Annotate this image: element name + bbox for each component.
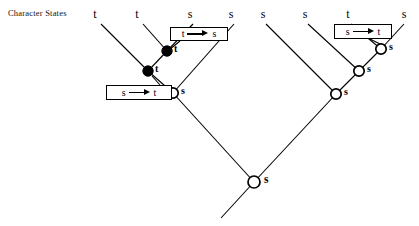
ancestral-node-filled bbox=[143, 66, 153, 76]
tip-state-label: t bbox=[341, 7, 355, 22]
node-state-label: t bbox=[174, 43, 177, 54]
tree-branch bbox=[254, 94, 336, 182]
tree-branch bbox=[221, 182, 254, 218]
nodes-group bbox=[143, 44, 386, 188]
change-to-state: t bbox=[154, 88, 157, 98]
tree-branch bbox=[266, 24, 336, 94]
ancestral-node-open bbox=[331, 89, 341, 99]
tree-branch bbox=[173, 93, 254, 182]
state-change-box: ts bbox=[170, 27, 228, 41]
change-from-state: s bbox=[346, 27, 350, 37]
node-state-label: s bbox=[367, 63, 371, 74]
branches-group bbox=[101, 24, 404, 218]
ancestral-node-open bbox=[354, 66, 364, 76]
tip-state-label: s bbox=[183, 7, 197, 22]
change-from-state: t bbox=[182, 29, 185, 39]
tip-state-label: s bbox=[256, 7, 270, 22]
ancestral-node-open bbox=[376, 44, 386, 54]
node-state-label: s bbox=[264, 173, 268, 185]
tip-state-label: t bbox=[88, 7, 102, 22]
ancestral-node-filled bbox=[162, 46, 172, 56]
node-state-label: s bbox=[181, 85, 185, 96]
right-arrow-icon bbox=[129, 88, 151, 97]
change-from-state: s bbox=[122, 88, 126, 98]
right-arrow-icon bbox=[187, 30, 209, 39]
right-arrow-icon bbox=[353, 27, 375, 36]
tip-state-label: s bbox=[397, 7, 411, 22]
change-to-state: s bbox=[212, 29, 216, 39]
phylogenetic-tree-figure: Character States ttssssts ttsssss tsstst bbox=[0, 0, 419, 226]
character-states-row-label: Character States bbox=[8, 8, 67, 18]
node-state-label: t bbox=[155, 63, 158, 74]
state-change-box: st bbox=[334, 24, 392, 39]
tip-state-label: t bbox=[130, 7, 144, 22]
tip-state-label: s bbox=[224, 7, 238, 22]
state-change-box: st bbox=[106, 85, 172, 100]
node-state-label: s bbox=[389, 41, 393, 52]
ancestral-node-open bbox=[248, 176, 260, 188]
change-to-state: t bbox=[378, 27, 381, 37]
node-state-label: s bbox=[344, 86, 348, 97]
tree-branch bbox=[101, 24, 148, 71]
tip-state-label: s bbox=[298, 7, 312, 22]
